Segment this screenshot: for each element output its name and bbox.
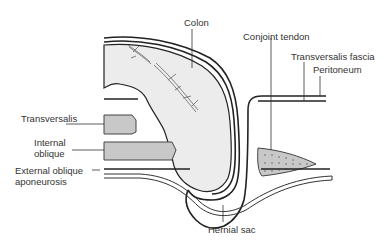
label-conjoint-tendon: Conjoint tendon bbox=[243, 31, 310, 42]
label-transversalis-fascia: Transversalis fascia bbox=[291, 51, 375, 62]
label-colon: Colon bbox=[184, 17, 209, 28]
label-external-oblique-2: aponeurosis bbox=[15, 176, 67, 187]
label-peritoneum: Peritoneum bbox=[313, 64, 362, 75]
hernia-diagram-svg: Colon Conjoint tendon Transversalis fasc… bbox=[0, 0, 388, 244]
label-hernial-sac: Hernial sac bbox=[208, 224, 256, 235]
diagram: Colon Conjoint tendon Transversalis fasc… bbox=[0, 0, 388, 244]
label-transversalis: Transversalis bbox=[21, 113, 77, 124]
conjoint-tendon bbox=[258, 148, 316, 176]
transversalis-muscle bbox=[104, 115, 136, 134]
label-internal-oblique-1: Internal bbox=[34, 137, 66, 148]
label-internal-oblique-2: oblique bbox=[34, 148, 65, 159]
internal-oblique-muscle bbox=[104, 142, 176, 160]
label-external-oblique-1: External oblique bbox=[15, 165, 83, 176]
